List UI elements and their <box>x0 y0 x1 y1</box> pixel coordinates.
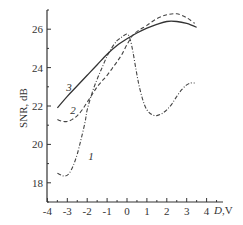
curve-label-3: 3 <box>65 81 72 93</box>
x-tick-label: 2 <box>164 205 170 217</box>
y-tick-label: 20 <box>32 138 44 150</box>
y-tick-label: 18 <box>32 177 44 189</box>
x-tick-label: -3 <box>63 205 73 217</box>
x-axis-title-unit: ,V <box>222 204 233 216</box>
curve-label-2: 2 <box>70 104 76 116</box>
curve-label-1: 1 <box>88 150 94 162</box>
x-tick-label: 3 <box>184 205 190 217</box>
curve-2 <box>57 14 194 122</box>
x-tick-label: -1 <box>103 205 112 217</box>
x-tick-label: 0 <box>124 205 130 217</box>
curve-1 <box>57 34 194 176</box>
x-axis-title: D,V <box>213 204 233 216</box>
curve-labels: 123 <box>65 81 93 162</box>
x-tick-label: -2 <box>83 205 92 217</box>
y-axis-title: SNR, dB <box>17 88 29 128</box>
y-tick-label: 22 <box>32 100 43 112</box>
y-tick-label: 26 <box>32 23 44 35</box>
snr-vs-d-chart: -4-3-2-1012341820222426 123 SNR, dB D,V <box>0 0 243 225</box>
x-tick-label: -4 <box>43 205 53 217</box>
y-tick-label: 24 <box>32 62 44 74</box>
x-tick-label: 1 <box>144 205 150 217</box>
x-tick-label: 4 <box>204 205 210 217</box>
x-axis-title-var: D <box>213 204 222 216</box>
curve-3 <box>57 21 196 108</box>
curves <box>57 14 196 176</box>
